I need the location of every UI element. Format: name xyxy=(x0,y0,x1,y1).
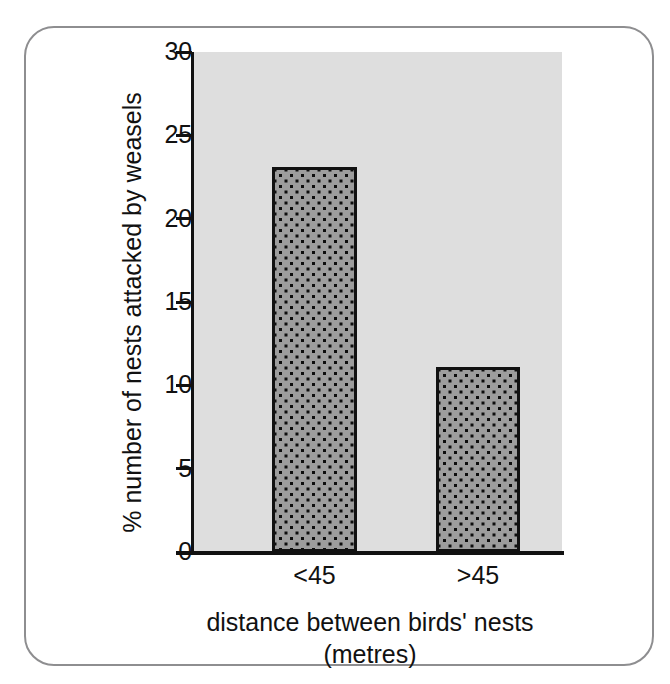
bar xyxy=(436,367,520,552)
bar xyxy=(272,167,357,552)
y-axis-tick-label: 30 xyxy=(130,39,192,64)
figure-canvas: 051015202530 <45>45 distance between bir… xyxy=(0,0,670,684)
x-axis-tick-label: >45 xyxy=(396,562,560,590)
x-axis-title-line1: distance between birds' nests xyxy=(206,608,533,636)
x-axis-title: distance between birds' nests (metres) xyxy=(120,606,620,670)
x-axis-tick-label: <45 xyxy=(232,562,397,590)
bar-chart: 051015202530 <45>45 distance between bir… xyxy=(0,0,670,684)
x-axis-title-line2: (metres) xyxy=(120,638,620,670)
y-axis-title: % number of nests attacked by weasels xyxy=(120,63,145,563)
